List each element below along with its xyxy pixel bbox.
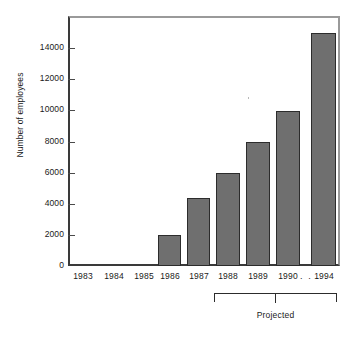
y-tick-10000 [68, 110, 75, 111]
projected-label: Projected [214, 310, 337, 320]
y-axis-label: 12000 [22, 74, 64, 83]
y-axis-label: 14000 [22, 43, 64, 52]
bar-1986 [158, 235, 181, 266]
y-label-12000-wrap: 12000 [14, 74, 64, 83]
y-axis-label: 0 [22, 261, 64, 270]
x-label-1994: 1994 [309, 271, 339, 281]
y-tick-2000 [68, 235, 75, 236]
bar-chart: Number of employees 14000 12000 10000 80… [0, 0, 359, 340]
y-tick-4000 [68, 204, 75, 205]
y-label-0-wrap: 0 [14, 261, 64, 270]
bar-1990 [276, 111, 300, 266]
x-label-1989: 1989 [243, 271, 273, 281]
bar-1988 [216, 173, 240, 266]
bar-1987 [187, 198, 210, 266]
y-tick-14000 [68, 48, 75, 49]
scan-artifact [248, 97, 249, 99]
y-axis-label: 10000 [22, 105, 64, 114]
y-axis-title: Number of employees [15, 55, 25, 175]
y-tick-12000 [68, 79, 75, 80]
y-label-2000-wrap: 2000 [14, 230, 64, 239]
x-label-1990: 1990 [273, 271, 303, 281]
x-label-1987: 1987 [184, 271, 214, 281]
y-label-6000-wrap: 6000 [14, 168, 64, 177]
y-label-8000-wrap: 8000 [14, 137, 64, 146]
y-axis-label: 2000 [22, 230, 64, 239]
projected-bracket-stem [275, 294, 276, 303]
y-tick-8000 [68, 142, 75, 143]
y-label-14000-wrap: 14000 [14, 43, 64, 52]
x-label-1988: 1988 [213, 271, 243, 281]
x-label-1984: 1984 [99, 271, 129, 281]
y-axis-label: 4000 [22, 199, 64, 208]
bar-1994 [311, 33, 336, 266]
x-label-1983: 1983 [68, 271, 98, 281]
bar-1989 [246, 142, 270, 266]
y-tick-6000 [68, 173, 75, 174]
y-axis-label: 6000 [22, 168, 64, 177]
y-axis-label: 8000 [22, 137, 64, 146]
y-label-4000-wrap: 4000 [14, 199, 64, 208]
y-label-10000-wrap: 10000 [14, 105, 64, 114]
x-label-1986: 1986 [155, 271, 185, 281]
